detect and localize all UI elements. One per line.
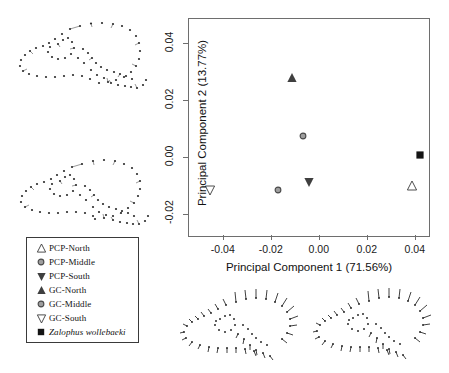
legend-box: PCP-NorthPCP-MiddlePCP-SouthGC-NorthGC-M… [26, 237, 139, 343]
square-filled-icon [33, 327, 49, 337]
y-tick-label: 0.04 [163, 31, 175, 53]
x-tick-mark [415, 235, 416, 240]
circle-gray-icon [298, 131, 308, 141]
legend-item-label: GC-North [49, 285, 86, 295]
triangle-up-open-icon [406, 180, 418, 192]
legend-item-zalophus-wollebaeki[interactable]: Zalophus wollebaeki [27, 325, 138, 339]
legend-item-gc-south[interactable]: GC-South [27, 311, 138, 325]
x-tick-mark [367, 235, 368, 240]
legend-item-gc-north[interactable]: GC-North [27, 283, 138, 297]
legend-item-gc-middle[interactable]: GC-Middle [27, 297, 138, 311]
triangle-down-open-icon [33, 313, 49, 324]
y-tick-label: 0.02 [163, 88, 175, 110]
x-tick-mark [223, 235, 224, 240]
legend-item-pcp-north[interactable]: PCP-North [27, 241, 138, 255]
x-tick-label: -0.04 [211, 243, 235, 255]
legend-item-label: Zalophus wollebaeki [49, 327, 126, 337]
x-tick-label: -0.02 [259, 243, 283, 255]
legend-item-label: PCP-North [49, 243, 90, 253]
y-tick-mark [183, 100, 188, 101]
triangle-up-filled-icon [286, 72, 298, 84]
circle-gray-icon [33, 299, 49, 309]
legend-item-label: PCP-South [49, 271, 90, 281]
y-axis-label: Principal Component 2 (13.77%) [196, 14, 208, 233]
x-tick-mark [319, 235, 320, 240]
square-filled-icon [414, 150, 425, 161]
y-tick-mark [183, 214, 188, 215]
x-tick-mark [271, 235, 272, 240]
plot-frame [188, 18, 430, 237]
skull-landmark-diagram-top-left [8, 14, 158, 98]
x-tick-label: 0.00 [309, 243, 329, 255]
y-tick-mark [183, 43, 188, 44]
legend-item-label: GC-Middle [49, 299, 91, 309]
legend-item-label: PCP-Middle [49, 257, 95, 267]
skull-landmark-diagram-middle-left [8, 148, 158, 232]
pca-scatter-panel: -0.04-0.020.000.020.04 -0.020.000.020.04… [155, 6, 445, 281]
triangle-up-filled-icon [33, 285, 49, 296]
legend-item-pcp-south[interactable]: PCP-South [27, 269, 138, 283]
legend-item-pcp-middle[interactable]: PCP-Middle [27, 255, 138, 269]
circle-gray-icon [273, 185, 283, 195]
skull-landmark-diagram-bottom-left [178, 287, 310, 371]
plot-data-area [189, 19, 429, 236]
x-axis-label: Principal Component 1 (71.56%) [188, 261, 430, 273]
y-tick-label: -0.02 [163, 202, 175, 224]
y-tick-label: 0.00 [163, 145, 175, 167]
x-tick-label: 0.02 [357, 243, 377, 255]
y-tick-mark [183, 157, 188, 158]
legend-item-label: GC-South [49, 313, 86, 323]
skull-landmark-diagram-bottom-right [305, 287, 445, 371]
circle-gray-icon [33, 257, 49, 267]
triangle-down-filled-icon [303, 176, 315, 188]
triangle-down-filled-icon [33, 271, 49, 282]
triangle-up-open-icon [33, 243, 49, 254]
x-tick-label: 0.04 [405, 243, 425, 255]
